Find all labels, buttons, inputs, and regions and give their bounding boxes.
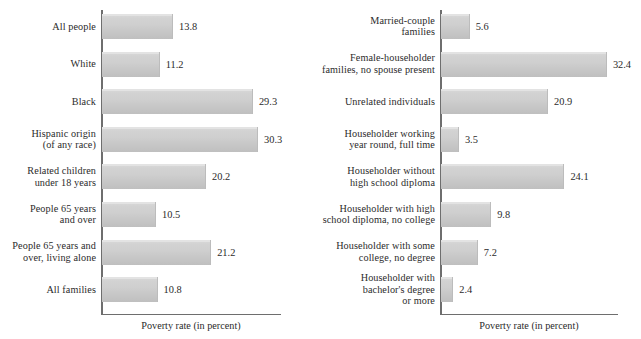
chart-bar-row: People 65 years andover, living alone21.… <box>0 240 300 265</box>
bar-category-label-line: White <box>0 58 96 70</box>
bar-category-label-line: college, no degree <box>300 252 435 264</box>
bar-category-label-line: bachelor's degree <box>300 284 435 296</box>
bar-category-label-line: Married-couple <box>300 15 435 27</box>
bar-category-label: White <box>0 58 96 70</box>
bar-category-label: Married-couplefamilies <box>300 15 435 38</box>
chart-bar-row: All families10.8 <box>0 277 300 302</box>
bar-category-label-line: All people <box>0 21 96 33</box>
chart-bar <box>102 52 160 77</box>
chart-bar <box>441 277 453 302</box>
right-chart-x-axis-title: Poverty rate (in percent) <box>440 320 618 331</box>
chart-bar <box>441 127 459 152</box>
left-chart-x-axis-title: Poverty rate (in percent) <box>101 320 281 331</box>
bar-value-label: 5.6 <box>476 14 489 39</box>
right-chart-x-axis <box>440 314 618 315</box>
chart-bar-row: People 65 yearsand over10.5 <box>0 202 300 227</box>
bar-value-label: 11.2 <box>166 52 184 77</box>
bar-value-label: 10.8 <box>164 277 182 302</box>
poverty-rate-figure: All people13.8White11.2Black29.3Hispanic… <box>0 0 641 339</box>
bar-category-label: Householder withbachelor's degreeor more <box>300 272 435 307</box>
chart-bar <box>102 89 253 114</box>
bar-category-label-line: under 18 years <box>0 177 96 189</box>
bar-value-label: 7.2 <box>484 240 497 265</box>
bar-category-label: All families <box>0 284 96 296</box>
bar-category-label-line: People 65 years and <box>0 240 96 252</box>
bar-category-label-line: high school diploma <box>300 177 435 189</box>
bar-category-label: Householder workingyear round, full time <box>300 128 435 151</box>
bar-value-label: 10.5 <box>162 202 180 227</box>
bar-category-label-line: year round, full time <box>300 139 435 151</box>
bar-value-label: 20.2 <box>212 164 230 189</box>
bar-value-label: 13.8 <box>179 14 197 39</box>
bar-category-label-line: Female-householder <box>300 52 435 64</box>
bar-category-label-line: Householder with <box>300 272 435 284</box>
bar-value-label: 32.4 <box>613 52 631 77</box>
left-chart-x-axis <box>101 314 281 315</box>
bar-category-label: Hispanic origin(of any race) <box>0 128 96 151</box>
chart-bar-row: Householder with highschool diploma, no … <box>300 202 641 227</box>
chart-bar-row: White11.2 <box>0 52 300 77</box>
chart-bar-row: Married-couplefamilies5.6 <box>300 14 641 39</box>
bar-category-label: Related childrenunder 18 years <box>0 165 96 188</box>
chart-bar-row: Unrelated individuals20.9 <box>300 89 641 114</box>
bar-category-label: Female-householderfamilies, no spouse pr… <box>300 52 435 75</box>
bar-category-label: Unrelated individuals <box>300 96 435 108</box>
bar-category-label: Black <box>0 96 96 108</box>
chart-bar <box>102 277 158 302</box>
chart-bar-row: Black29.3 <box>0 89 300 114</box>
chart-bar <box>441 14 470 39</box>
bar-category-label-line: over, living alone <box>0 252 96 264</box>
chart-bar-row: Householder workingyear round, full time… <box>300 127 641 152</box>
bar-value-label: 3.5 <box>465 127 478 152</box>
bar-value-label: 2.4 <box>459 277 472 302</box>
chart-bar <box>441 240 478 265</box>
bar-category-label-line: or more <box>300 295 435 307</box>
bar-category-label-line: Unrelated individuals <box>300 96 435 108</box>
bar-category-label-line: Householder with high <box>300 203 435 215</box>
chart-panel-left: All people13.8White11.2Black29.3Hispanic… <box>0 0 300 339</box>
bar-category-label: Householder withouthigh school diploma <box>300 165 435 188</box>
bar-category-label-line: All families <box>0 284 96 296</box>
bar-category-label-line: school diploma, no college <box>300 214 435 226</box>
bar-category-label: Householder with highschool diploma, no … <box>300 203 435 226</box>
bar-category-label: People 65 yearsand over <box>0 203 96 226</box>
chart-bar-row: Hispanic origin(of any race)30.3 <box>0 127 300 152</box>
bar-category-label-line: Hispanic origin <box>0 128 96 140</box>
bar-category-label-line: Black <box>0 96 96 108</box>
chart-bar <box>102 164 206 189</box>
chart-panel-right: Married-couplefamilies5.6Female-househol… <box>300 0 641 339</box>
chart-bar <box>441 52 607 77</box>
bar-category-label-line: People 65 years <box>0 203 96 215</box>
chart-bar-row: Householder withbachelor's degreeor more… <box>300 277 641 302</box>
chart-bar <box>102 202 156 227</box>
bar-category-label-line: Householder without <box>300 165 435 177</box>
bar-value-label: 20.9 <box>554 89 572 114</box>
chart-bar <box>441 89 548 114</box>
bar-value-label: 9.8 <box>497 202 510 227</box>
bar-category-label: People 65 years andover, living alone <box>0 240 96 263</box>
bar-category-label-line: families, no spouse present <box>300 64 435 76</box>
chart-bar <box>441 164 564 189</box>
bar-category-label-line: Related children <box>0 165 96 177</box>
chart-bar-row: Female-householderfamilies, no spouse pr… <box>300 52 641 77</box>
bar-value-label: 24.1 <box>570 164 588 189</box>
bar-category-label: Householder with somecollege, no degree <box>300 240 435 263</box>
bar-value-label: 30.3 <box>264 127 282 152</box>
bar-category-label-line: Householder with some <box>300 240 435 252</box>
chart-bar-row: Related childrenunder 18 years20.2 <box>0 164 300 189</box>
chart-bar-row: Householder with somecollege, no degree7… <box>300 240 641 265</box>
bar-category-label-line: (of any race) <box>0 139 96 151</box>
bar-category-label: All people <box>0 21 96 33</box>
bar-category-label-line: Householder working <box>300 128 435 140</box>
chart-bar <box>441 202 491 227</box>
bar-value-label: 29.3 <box>259 89 277 114</box>
chart-bar-row: Householder withouthigh school diploma24… <box>300 164 641 189</box>
chart-bar <box>102 240 211 265</box>
bar-category-label-line: families <box>300 26 435 38</box>
bar-value-label: 21.2 <box>217 240 235 265</box>
chart-bar-row: All people13.8 <box>0 14 300 39</box>
chart-bar <box>102 14 173 39</box>
bar-category-label-line: and over <box>0 214 96 226</box>
chart-bar <box>102 127 258 152</box>
